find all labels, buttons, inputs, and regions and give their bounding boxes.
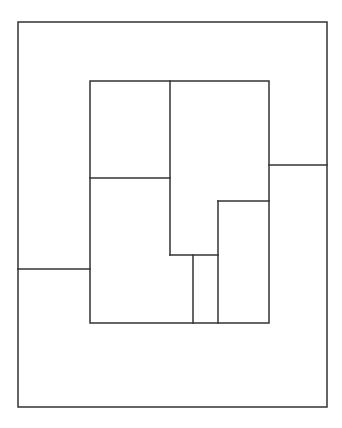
partition-diagram	[0, 0, 342, 428]
inner-rectangle	[90, 81, 269, 323]
outer-rectangle	[18, 22, 327, 407]
divider-lines	[18, 81, 327, 323]
